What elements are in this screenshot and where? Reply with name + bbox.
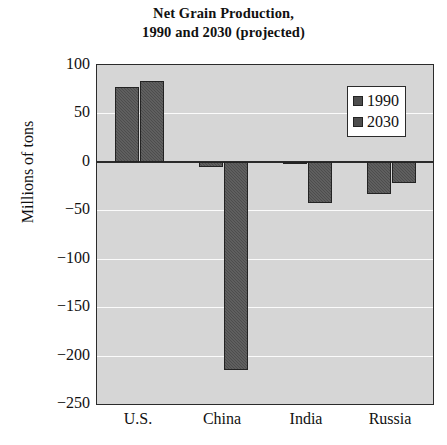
bar-india-2030	[308, 162, 332, 203]
gridline	[97, 356, 433, 357]
chart-legend: 1990 2030	[347, 86, 406, 137]
bar-india-1990	[283, 162, 307, 164]
y-tick-label: −200	[4, 347, 90, 363]
bar-us-1990	[115, 87, 139, 162]
gridline	[97, 259, 433, 260]
y-tick-label: −50	[4, 201, 90, 217]
y-tick-label: −250	[4, 395, 90, 411]
bar-us-2030	[140, 81, 164, 161]
x-axis-tick-labels: U.S. China India Russia	[96, 409, 434, 435]
y-tick-label: 0	[4, 153, 90, 169]
legend-swatch-1990-icon	[353, 96, 363, 106]
y-tick-label: 50	[4, 104, 90, 120]
x-tick-label-russia: Russia	[369, 409, 412, 429]
legend-label-2030: 2030	[367, 111, 399, 132]
y-tick-label: −100	[4, 250, 90, 266]
legend-entry-2030: 2030	[353, 111, 399, 132]
bar-china-1990	[199, 162, 223, 167]
gridline	[97, 307, 433, 308]
bar-russia-1990	[367, 162, 391, 194]
y-tick-label: 100	[4, 56, 90, 72]
bar-russia-2030	[392, 162, 416, 183]
legend-swatch-2030-icon	[353, 117, 363, 127]
x-tick-label-china: China	[203, 409, 241, 429]
bar-china-2030	[224, 162, 248, 370]
y-axis-tick-labels: 100 50 0 −50 −100 −150 −200 −250	[0, 0, 90, 445]
y-tick-label: −150	[4, 298, 90, 314]
legend-entry-1990: 1990	[353, 90, 399, 111]
x-tick-label-us: U.S.	[124, 409, 152, 429]
bar-chart-figure: Net Grain Production, 1990 and 2030 (pro…	[0, 0, 447, 445]
legend-label-1990: 1990	[367, 90, 399, 111]
gridline	[97, 210, 433, 211]
x-tick-label-india: India	[290, 409, 323, 429]
